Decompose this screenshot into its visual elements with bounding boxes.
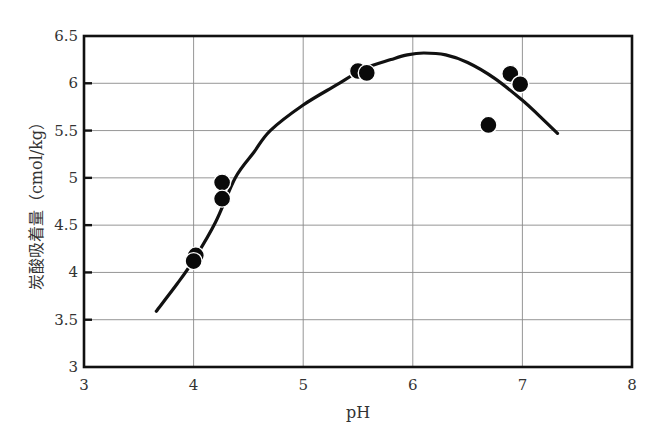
- data-point-marker: [480, 116, 497, 133]
- plot-frame: [84, 36, 632, 367]
- x-tick-label: 4: [189, 376, 199, 394]
- y-tick-label: 5.5: [54, 122, 78, 140]
- y-axis-tick-labels: 33.544.555.566.5: [54, 27, 78, 376]
- y-tick-label: 3: [68, 358, 78, 376]
- y-axis-title: 炭酸吸着量（cmol/kg）: [27, 114, 46, 290]
- x-tick-label: 3: [79, 376, 89, 394]
- data-point-marker: [512, 76, 529, 93]
- gridlines: [84, 36, 632, 367]
- chart: 345678 33.544.555.566.5 pH 炭酸吸着量（cmol/kg…: [0, 0, 652, 436]
- x-axis-title: pH: [346, 403, 370, 422]
- y-axis-title-group: 炭酸吸着量（cmol/kg）: [27, 114, 46, 290]
- x-axis-tick-labels: 345678: [79, 376, 637, 394]
- data-points: [185, 62, 529, 269]
- y-tick-label: 6.5: [54, 27, 78, 45]
- x-tick-label: 6: [408, 376, 418, 394]
- x-tick-label: 8: [627, 376, 637, 394]
- x-tick-label: 5: [298, 376, 308, 394]
- data-point-marker: [358, 64, 375, 81]
- y-axis-title-unit: （cmol/kg）: [27, 114, 46, 210]
- data-point-marker: [214, 190, 231, 207]
- y-tick-label: 4: [68, 263, 78, 281]
- y-tick-label: 5: [68, 169, 78, 187]
- x-tick-label: 7: [518, 376, 528, 394]
- y-tick-label: 4.5: [54, 216, 78, 234]
- data-point-marker: [185, 253, 202, 270]
- data-point-marker: [214, 174, 231, 191]
- y-tick-label: 6: [68, 74, 78, 92]
- y-tick-label: 3.5: [54, 311, 78, 329]
- y-axis-title-main: 炭酸吸着量: [27, 210, 46, 290]
